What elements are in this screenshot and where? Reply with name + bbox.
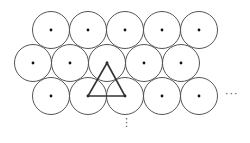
center-dot	[50, 95, 53, 98]
packed-circle	[181, 78, 218, 115]
center-dot	[32, 62, 35, 65]
continuation-right-ellipsis: ···	[225, 87, 239, 100]
packed-circle	[144, 78, 181, 115]
center-dot	[50, 29, 53, 32]
packed-circle	[107, 12, 144, 49]
packed-circle	[15, 45, 52, 82]
center-dot	[161, 95, 164, 98]
center-dot	[161, 29, 164, 32]
packed-circle	[70, 12, 107, 49]
lattice-triangle	[88, 63, 125, 96]
center-dot	[180, 62, 183, 65]
packed-circle	[33, 12, 70, 49]
packed-circle	[163, 45, 200, 82]
center-dot	[69, 62, 72, 65]
packed-circle	[52, 45, 89, 82]
packed-circle	[33, 78, 70, 115]
center-dot	[124, 29, 127, 32]
center-dot	[87, 29, 90, 32]
center-dot	[198, 29, 201, 32]
center-dot	[143, 62, 146, 65]
continuation-down-ellipsis: ⋮	[121, 121, 129, 125]
center-dot	[198, 95, 201, 98]
packed-circle	[126, 45, 163, 82]
packed-circle	[144, 12, 181, 49]
packed-circle	[181, 12, 218, 49]
